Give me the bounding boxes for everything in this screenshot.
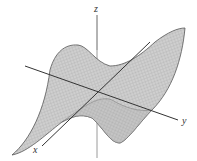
x-axis-label: x: [33, 145, 37, 155]
z-axis-label: z: [94, 4, 98, 14]
surface-plot-figure: z y x: [0, 0, 197, 161]
y-axis-label: y: [182, 116, 186, 126]
surface-plot-canvas: [0, 0, 197, 161]
